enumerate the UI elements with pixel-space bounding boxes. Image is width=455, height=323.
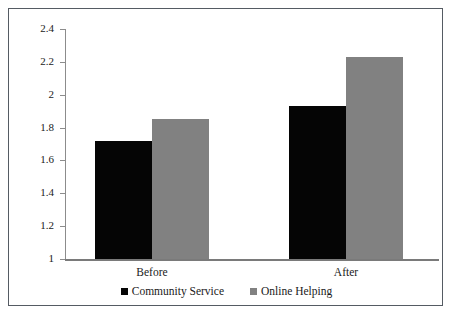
x-axis-tick-label-after: After xyxy=(296,266,396,278)
chart-legend: Community ServiceOnline Helping xyxy=(9,285,444,297)
legend-entry-online-helping: Online Helping xyxy=(250,285,332,297)
bar-after-community-service xyxy=(289,106,346,259)
x-axis-tick-label-before: Before xyxy=(102,266,202,278)
legend-label: Community Service xyxy=(132,285,224,297)
y-axis-tick-mark xyxy=(60,62,66,63)
legend-swatch-icon xyxy=(250,288,257,295)
chart-figure-frame: 2.42.221.81.61.41.21 BeforeAfter Communi… xyxy=(8,8,443,306)
y-axis-tick-mark xyxy=(60,226,66,227)
y-axis-tick-label: 1 xyxy=(10,253,54,264)
y-axis-tick-label: 1.6 xyxy=(10,154,54,165)
y-axis-tick-mark xyxy=(60,193,66,194)
y-axis-tick-label: 2.2 xyxy=(10,56,54,67)
x-axis-line xyxy=(65,259,439,261)
y-axis-tick-label: 2 xyxy=(10,89,54,100)
y-axis-tick-label: 2.4 xyxy=(10,23,54,34)
y-axis-tick-mark xyxy=(60,29,66,30)
bar-before-community-service xyxy=(95,141,152,259)
bar-before-online-helping xyxy=(152,119,209,259)
y-axis-tick-mark xyxy=(60,128,66,129)
y-axis-tick-mark xyxy=(60,95,66,96)
y-axis-tick-label: 1.4 xyxy=(10,187,54,198)
plot-area: 2.42.221.81.61.41.21 BeforeAfter Communi… xyxy=(9,9,444,307)
legend-label: Online Helping xyxy=(261,285,332,297)
y-axis-tick-label: 1.2 xyxy=(10,220,54,231)
legend-entry-community-service: Community Service xyxy=(121,285,224,297)
y-axis-tick-label: 1.8 xyxy=(10,122,54,133)
y-axis-tick-mark xyxy=(60,160,66,161)
legend-swatch-icon xyxy=(121,288,128,295)
bar-after-online-helping xyxy=(346,57,403,259)
